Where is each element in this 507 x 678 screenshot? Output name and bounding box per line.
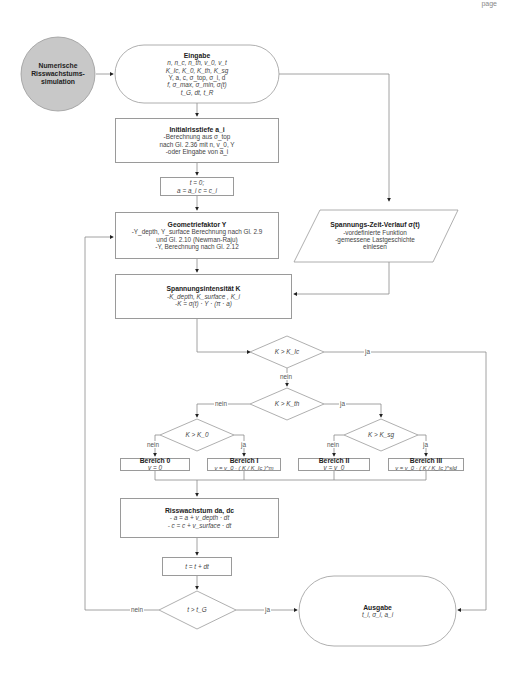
decision-t-g: t > t_G bbox=[167, 606, 227, 613]
init-line-2: a = a_i c = c_i bbox=[177, 187, 217, 194]
input-line-4: f, σ_max, σ_min, σ(t) bbox=[167, 81, 227, 88]
geometry-factor-node: Geometriefaktor Y -Y_depth, Y_surface Be… bbox=[115, 212, 279, 259]
time-step-node: t = t + dt bbox=[162, 557, 232, 576]
start-line-3: simulation bbox=[41, 78, 75, 86]
region-2-formula: v = v_0 bbox=[324, 465, 345, 471]
init-node: t = 0; a = a_i c = c_i bbox=[160, 177, 234, 196]
region-0-formula: v = 0 bbox=[148, 465, 162, 471]
input-node: Eingabe n, n_c, n_th, v_0, v_t K_Ic, K_0… bbox=[115, 45, 279, 103]
initial-depth-line-1: -Berechnung aus σ_top bbox=[164, 133, 231, 140]
stress-history-node: Spannungs-Zeit-Verlauf σ(t) -vordefinier… bbox=[305, 212, 445, 260]
decision-k-0: K > K_0 bbox=[167, 431, 227, 438]
start-line-2: Risswachstums- bbox=[31, 70, 85, 78]
input-line-5: t_G, dt, t_R bbox=[181, 89, 214, 96]
start-node: Numerische Risswachstums- simulation bbox=[21, 52, 95, 96]
edge-label-ksg-yes: ja bbox=[422, 441, 429, 448]
region-1-formula: v = v_0 · ( K / K_Ic )^m bbox=[215, 465, 274, 471]
stress-history-title: Spannungs-Zeit-Verlauf σ(t) bbox=[330, 221, 420, 228]
stress-intensity-node: Spannungsintensität K -K_depth, K_surfac… bbox=[115, 274, 292, 319]
edge-label-kic-yes: ja bbox=[364, 348, 371, 355]
decision-k-th: K > K_th bbox=[257, 400, 317, 407]
region-3-node: Bereich III v = v_0 · ( K / K_Ic )^sld bbox=[388, 458, 464, 471]
initial-depth-node: Initialrisstiefe a_i -Berechnung aus σ_t… bbox=[115, 118, 279, 163]
page-number-fragment: page bbox=[481, 0, 497, 7]
stress-history-line-3: einlesen bbox=[363, 243, 387, 250]
edge-label-ksg-no: nein bbox=[326, 441, 340, 448]
input-line-1: n, n_c, n_th, v_0, v_t bbox=[167, 59, 226, 66]
stress-history-line-2: -gemessene Lastgeschichte bbox=[335, 236, 415, 243]
input-line-2: K_Ic, K_0, K_th, K_sg bbox=[166, 67, 229, 74]
edge-label-tg-no: nein bbox=[130, 606, 144, 613]
geometry-line-1: -Y_depth, Y_surface Berechnung nach Gl. … bbox=[132, 228, 263, 235]
edge-label-tg-yes: ja bbox=[264, 606, 271, 613]
geometry-title: Geometriefaktor Y bbox=[168, 221, 227, 228]
stress-intensity-line-1: -K_depth, K_surface , K_i bbox=[167, 293, 240, 300]
decision-k-ic: K > K_Ic bbox=[257, 348, 317, 355]
edge-label-kth-no: nein bbox=[214, 400, 228, 407]
initial-depth-line-2: nach Gl. 2.36 mit n, v_0, Y bbox=[159, 141, 234, 148]
geometry-line-2: und Gl. 2.10 (Newman-Raju) bbox=[156, 236, 237, 243]
start-line-1: Numerische bbox=[39, 62, 78, 70]
output-title: Ausgabe bbox=[363, 604, 392, 611]
edge-label-kth-yes: ja bbox=[339, 400, 346, 407]
edge-label-k0-no: nein bbox=[146, 441, 160, 448]
decision-k-sg: K > K_sg bbox=[351, 431, 411, 438]
initial-depth-title: Initialrisstiefe a_i bbox=[169, 126, 224, 133]
crack-growth-node: Risswachstum da, dc - a = a + v_depth · … bbox=[120, 498, 279, 538]
region-1-node: Bereich I v = v_0 · ( K / K_Ic )^m bbox=[207, 458, 281, 471]
output-line: t_i, σ_i, a_i bbox=[362, 611, 393, 618]
crack-growth-line-2: - c = c + v_surface · dt bbox=[168, 522, 232, 529]
crack-growth-title: Risswachstum da, dc bbox=[165, 507, 234, 514]
input-line-3: Y, a, c, σ_top, σ_i, d bbox=[169, 74, 226, 81]
edge-label-k0-yes: ja bbox=[240, 441, 247, 448]
initial-depth-line-3: -oder Eingabe von a_i bbox=[166, 148, 229, 155]
region-2-node: Bereich II v = v_0 bbox=[298, 458, 370, 471]
stress-history-line-1: -vordefinierte Funktion bbox=[343, 229, 407, 236]
region-3-formula: v = v_0 · ( K / K_Ic )^sld bbox=[395, 465, 457, 471]
stress-intensity-title: Spannungsintensität K bbox=[166, 285, 240, 292]
init-line-1: t = 0; bbox=[190, 179, 204, 186]
region-0-node: Bereich 0 v = 0 bbox=[120, 458, 190, 471]
time-step-text: t = t + dt bbox=[185, 563, 208, 570]
edge-label-kic-no: nein bbox=[279, 373, 293, 380]
input-title: Eingabe bbox=[184, 52, 210, 59]
crack-growth-line-1: - a = a + v_depth · dt bbox=[170, 514, 229, 521]
geometry-line-3: -Y, Berechnung nach Gl. 2.12 bbox=[155, 243, 238, 250]
stress-intensity-line-2: -K = σ(t) · Y · (π · a) bbox=[175, 300, 232, 307]
output-node: Ausgabe t_i, σ_i, a_i bbox=[299, 576, 456, 646]
